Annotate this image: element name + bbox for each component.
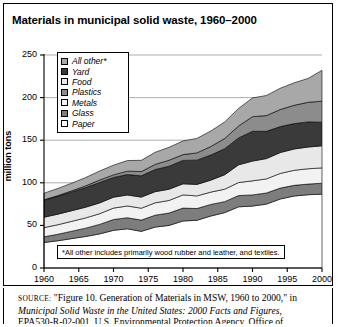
x-tick-label: 1960 [29, 274, 59, 284]
legend-swatch-icon [61, 68, 68, 75]
figure-panel: Materials in municipal solid waste, 1960… [0, 0, 338, 327]
legend-swatch-icon [61, 89, 68, 96]
source-citation-box: SOURCE: "Figure 10. Generation of Materi… [3, 288, 333, 324]
legend-swatch-icon [61, 120, 68, 127]
legend-item: Yard [61, 66, 123, 76]
legend-item: Food [61, 77, 123, 87]
legend-item-label: Paper [72, 119, 95, 129]
legend-item-label: Yard [72, 67, 89, 77]
legend-swatch-icon [61, 58, 68, 65]
y-axis-label: million tons [3, 131, 13, 182]
x-tick-label: 1980 [168, 274, 198, 284]
y-tick-label: 100 [13, 177, 37, 187]
y-tick-label: 200 [13, 92, 37, 102]
stacked-area-chart [3, 3, 333, 286]
x-tick-label: 2000 [307, 274, 337, 284]
chart-legend: All other*YardFoodPlasticsMetalsGlassPap… [57, 52, 129, 133]
legend-item: Metals [61, 98, 123, 108]
legend-item: Glass [61, 108, 123, 118]
x-tick-label: 1975 [133, 274, 163, 284]
legend-swatch-icon [61, 78, 68, 85]
x-tick-label: 1985 [203, 274, 233, 284]
legend-item: All other* [61, 56, 123, 66]
legend-item-label: Glass [72, 108, 94, 118]
y-tick-label: 250 [13, 49, 37, 59]
source-label: SOURCE: [18, 294, 51, 303]
legend-item-label: Metals [72, 98, 97, 108]
chart-footnote: *All other includes primarily wood rubbe… [57, 245, 285, 259]
source-italic-title: Municipal Solid Waste in the United Stat… [18, 305, 280, 316]
legend-item-label: Plastics [72, 87, 101, 97]
x-tick-label: 1970 [99, 274, 129, 284]
y-tick-label: 0 [13, 262, 37, 272]
y-tick-label: 150 [13, 134, 37, 144]
source-citation: SOURCE: "Figure 10. Generation of Materi… [4, 288, 332, 324]
legend-item-label: All other* [72, 56, 107, 66]
x-tick-label: 1990 [238, 274, 268, 284]
source-part1: "Figure 10. Generation of Materials in M… [54, 292, 297, 303]
x-tick-label: 1995 [272, 274, 302, 284]
plot-area: million tons 050100150200250 19601965197… [3, 3, 333, 286]
y-tick-label: 50 [13, 219, 37, 229]
x-tick-label: 1965 [64, 274, 94, 284]
legend-swatch-icon [61, 99, 68, 106]
legend-item-label: Food [72, 77, 91, 87]
legend-swatch-icon [61, 110, 68, 117]
legend-item: Plastics [61, 87, 123, 97]
legend-item: Paper [61, 118, 123, 128]
